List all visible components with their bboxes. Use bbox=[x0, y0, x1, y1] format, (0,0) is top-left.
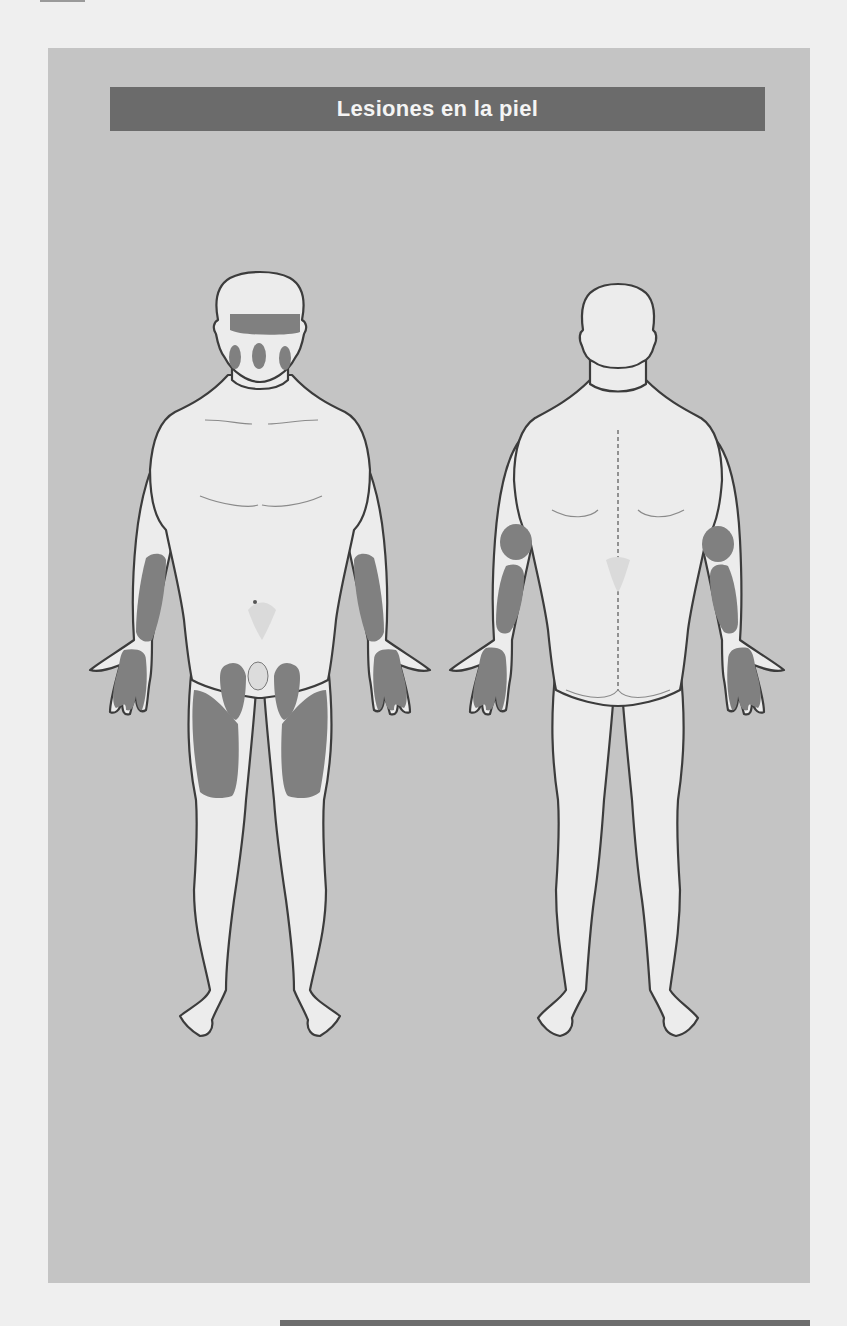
body-map-diagram: .skin { fill: #ececec; stroke: #3c3c3c; … bbox=[0, 0, 847, 1326]
lesion-nose bbox=[252, 343, 266, 369]
lesion-right-cheek bbox=[229, 345, 241, 369]
lesion-left-cheek bbox=[279, 346, 291, 370]
back-head bbox=[580, 284, 656, 368]
lesion-back-right-elbow bbox=[500, 524, 532, 560]
lesion-back-left-elbow bbox=[702, 526, 734, 562]
front-view-figure bbox=[90, 272, 430, 1036]
front-torso bbox=[150, 375, 370, 698]
back-right-leg bbox=[538, 665, 614, 1036]
back-left-leg bbox=[622, 665, 698, 1036]
lesion-forehead bbox=[230, 314, 300, 335]
back-view-figure bbox=[450, 284, 784, 1036]
page-bottom-rule bbox=[280, 1320, 810, 1326]
